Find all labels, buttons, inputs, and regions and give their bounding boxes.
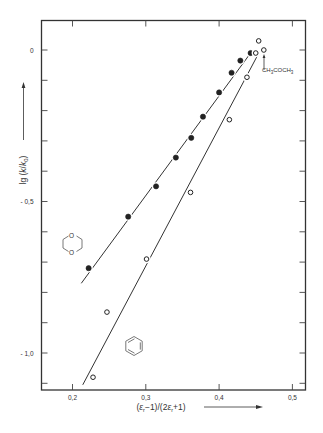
chart: 0,20,30,40,50- 0,5- 1,0 CH3COCH3 O O lg … (0, 0, 323, 433)
open-data-point (144, 257, 149, 262)
fit-lines (81, 53, 257, 385)
filled-data-point (200, 114, 205, 119)
svg-text:CH3COCH3: CH3COCH3 (262, 67, 294, 75)
open-data-point (262, 48, 267, 53)
y-axis-label: lg (k/k0) (18, 155, 29, 184)
y-axis-arrow (22, 82, 26, 140)
acetone-annotation: CH3COCH3 (262, 54, 294, 75)
dioxane-structure-icon: O O (63, 232, 82, 256)
axis-ticks (42, 21, 306, 391)
svg-text:O: O (69, 232, 74, 239)
fit-line (81, 53, 250, 283)
filled-data-point (86, 266, 91, 271)
x-tick-label: 0,4 (215, 394, 224, 401)
svg-text:lg (k/k0): lg (k/k0) (18, 155, 29, 184)
benzene-structure-icon (126, 337, 142, 356)
open-data-point (256, 39, 261, 44)
filled-data-point (173, 155, 178, 160)
open-data-point (245, 75, 250, 80)
open-data-point (188, 190, 193, 195)
filled-data-point (126, 214, 131, 219)
filled-data-point (238, 58, 243, 63)
plot-frame (42, 21, 306, 391)
axis-tick-labels: 0,20,30,40,50- 0,5- 1,0 (20, 47, 297, 402)
y-tick-label: - 1,0 (20, 350, 33, 357)
open-data-point (91, 375, 96, 380)
x-axis-label: (εr−1)/(2εr+1) (136, 402, 185, 413)
x-tick-label: 0,5 (288, 394, 297, 401)
x-axis-arrow (204, 405, 263, 409)
filled-data-point (189, 135, 194, 140)
x-tick-label: 0,2 (68, 394, 77, 401)
open-data-point (227, 117, 232, 122)
filled-data-point (229, 70, 234, 75)
filled-data-point (153, 184, 158, 189)
svg-text:O: O (69, 249, 74, 256)
open-data-point (105, 310, 110, 315)
y-tick-label: - 0,5 (20, 198, 33, 205)
fit-line (83, 56, 257, 385)
y-tick-label: 0 (30, 47, 34, 54)
open-data-point (253, 51, 258, 56)
x-tick-label: 0,3 (141, 394, 150, 401)
filled-data-point (217, 90, 222, 95)
